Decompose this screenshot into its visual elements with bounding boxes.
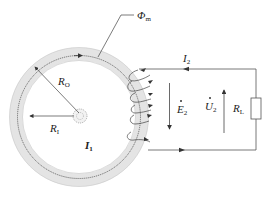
inner-radius-label: RI [50,123,59,136]
primary-conductor [73,109,87,123]
outer-radius-arrow [35,67,79,113]
flux-label: Φm [137,10,151,23]
transformer-diagram [0,0,271,204]
voltage-label: U2 [205,101,216,114]
e2-symbol: E [177,103,184,115]
outer-radius-label: RO [58,76,70,89]
voltage-phasor-dot [209,97,211,99]
rl-symbol: R [233,102,240,114]
i1-subscript: 1 [89,145,93,153]
load-label: RL [233,103,244,116]
emf-phasor-dot [180,100,182,102]
i2-direction-arrow [183,67,189,71]
ro-symbol: R [58,75,65,87]
emf-label: E2 [177,104,187,117]
flux-subscript: m [145,15,150,23]
ri-subscript: I [57,128,59,136]
u2-subscript: 2 [213,106,217,114]
e2-subscript: 2 [184,109,188,117]
return-direction-arrow [179,148,185,152]
ri-symbol: R [50,122,57,134]
primary-current-label: I1 [85,140,93,153]
u2-symbol: U [205,100,213,112]
load-resistor [251,98,261,119]
i2-subscript: 2 [187,58,191,66]
rl-subscript: L [240,108,244,116]
flux-leader [98,15,134,57]
secondary-current-label: I2 [183,53,190,66]
ro-subscript: O [65,81,70,89]
